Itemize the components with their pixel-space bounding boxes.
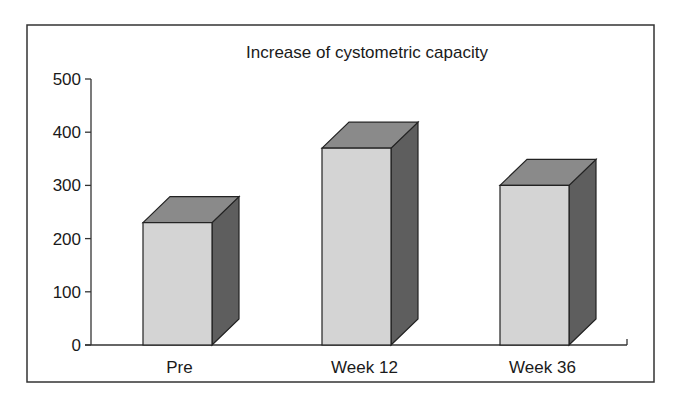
bar-side	[391, 122, 418, 345]
bar-front	[143, 223, 212, 345]
bar-front	[500, 185, 569, 345]
y-tick-label: 500	[53, 70, 81, 89]
y-tick-label: 100	[53, 283, 81, 302]
y-tick-label: 300	[53, 176, 81, 195]
chart: Increase of cystometric capacity 0100200…	[0, 0, 674, 409]
x-tick-label: Week 12	[331, 358, 398, 377]
chart-title: Increase of cystometric capacity	[246, 43, 488, 62]
bar-week-12	[322, 122, 418, 345]
y-tick-label: 0	[72, 336, 81, 355]
x-tick-label: Week 36	[509, 358, 576, 377]
bar-side	[569, 159, 596, 345]
bar-week-36	[500, 159, 596, 345]
x-tick-label: Pre	[166, 358, 192, 377]
y-tick-label: 400	[53, 123, 81, 142]
bar-front	[322, 148, 391, 345]
bar-pre	[143, 197, 239, 345]
bars	[143, 122, 596, 345]
x-axis-labels: PreWeek 12Week 36	[166, 358, 576, 377]
y-tick-label: 200	[53, 230, 81, 249]
